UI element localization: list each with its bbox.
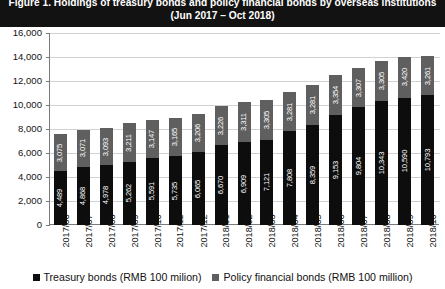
stacked-bar: 3,2066,065 <box>192 114 205 225</box>
bar-value-label: 3,147 <box>148 130 156 149</box>
bar-value-label: 10,793 <box>424 149 432 172</box>
stacked-bar: 3,3549,153 <box>329 75 342 225</box>
y-axis-tick-label: 4,000 <box>18 172 42 182</box>
chart-title-band: Figure 1. Holdings of treasury bonds and… <box>0 0 445 27</box>
y-axis-tick-label: 12,000 <box>13 76 42 86</box>
stacked-bar: 3,1475,591 <box>146 120 159 225</box>
chart-canvas: 02,0004,0006,0008,00010,00012,00014,0001… <box>0 27 445 262</box>
bar-segment-policy-bonds: 3,420 <box>398 57 411 98</box>
bar-segment-policy-bonds: 3,305 <box>260 100 273 140</box>
legend-item-treasury-bonds: Treasury bonds (RMB 100 milion) <box>33 271 202 283</box>
bar-segment-treasury-bonds: 9,153 <box>329 115 342 225</box>
y-axis-tick-label: 0 <box>37 220 42 230</box>
bar-value-label: 4,489 <box>56 189 64 208</box>
legend-item-policy-financial-bonds: Policy financial bonds (RMB 100 million) <box>212 271 412 283</box>
bar-value-label: 9,153 <box>332 161 340 180</box>
bar-segment-policy-bonds: 3,281 <box>283 92 296 131</box>
bar-segment-treasury-bonds: 8,359 <box>306 125 319 225</box>
legend-label: Treasury bonds (RMB 100 milion) <box>44 271 202 283</box>
legend-label: Policy financial bonds (RMB 100 million) <box>223 271 412 283</box>
bar-value-label: 5,591 <box>148 182 156 201</box>
bar-segment-treasury-bonds: 10,343 <box>375 101 388 225</box>
bar-value-label: 10,343 <box>378 152 386 175</box>
x-axis-tick-label: 2018/10 <box>421 228 434 241</box>
bar-segment-treasury-bonds: 9,804 <box>352 107 365 225</box>
bar-value-label: 3,281 <box>309 96 317 115</box>
y-axis-tick <box>46 225 50 226</box>
bar-segment-treasury-bonds: 6,670 <box>215 145 228 225</box>
stacked-bar: 3,42010,590 <box>398 57 411 225</box>
bar-value-label: 3,206 <box>194 124 202 143</box>
bar-value-label: 3,354 <box>332 86 340 105</box>
x-axis-tick-label: 2018/05 <box>306 228 319 241</box>
bar-value-label: 7,808 <box>286 169 294 188</box>
x-axis-tick-label: 2018/04 <box>283 228 296 241</box>
x-axis-tick-label: 2017/09 <box>123 228 136 241</box>
bar-segment-policy-bonds: 3,305 <box>375 61 388 101</box>
y-axis-tick-label: 6,000 <box>18 148 42 158</box>
stacked-bar: 3,2817,808 <box>283 92 296 225</box>
bar-segment-treasury-bonds: 10,590 <box>398 98 411 225</box>
bar-value-label: 3,281 <box>286 102 294 121</box>
y-axis-tick-label: 8,000 <box>18 124 42 134</box>
x-axis-tick-label: 2017/10 <box>146 228 159 241</box>
stacked-bar: 3,2818,359 <box>306 85 319 225</box>
x-axis-tick-label: 2018/09 <box>398 228 411 241</box>
chart-legend: Treasury bonds (RMB 100 milion)Policy fi… <box>0 265 445 289</box>
bar-segment-policy-bonds: 3,307 <box>352 68 365 108</box>
stacked-bar: 3,0754,489 <box>54 134 67 225</box>
bar-segment-policy-bonds: 3,075 <box>54 134 67 171</box>
bar-segment-policy-bonds: 3,071 <box>77 130 90 167</box>
stacked-bar: 3,3116,909 <box>238 102 251 225</box>
bar-value-label: 3,165 <box>171 128 179 147</box>
chart-screenshot: Figure 1. Holdings of treasury bonds and… <box>0 0 445 289</box>
bar-segment-policy-bonds: 3,311 <box>238 102 251 142</box>
bar-segment-treasury-bonds: 10,793 <box>421 95 434 225</box>
bar-segment-policy-bonds: 3,147 <box>146 120 159 158</box>
bar-value-label: 3,226 <box>217 116 225 135</box>
stacked-bar: 3,0714,868 <box>77 130 90 225</box>
bar-value-label: 3,305 <box>378 72 386 91</box>
x-axis-tick-label: 2018/07 <box>352 228 365 241</box>
stacked-bar: 3,2266,670 <box>215 106 228 225</box>
bar-value-label: 3,305 <box>263 110 271 129</box>
bar-value-label: 4,868 <box>79 187 87 206</box>
y-axis-tick-label: 2,000 <box>18 196 42 206</box>
bar-value-label: 4,978 <box>102 186 110 205</box>
bar-segment-policy-bonds: 3,354 <box>329 75 342 115</box>
stacked-bar: 3,3079,804 <box>352 68 365 225</box>
bar-value-label: 6,065 <box>194 179 202 198</box>
x-axis-tick-label: 2018/08 <box>375 228 388 241</box>
bar-value-label: 3,075 <box>56 143 64 162</box>
x-axis-tick-label: 2017/08 <box>100 228 113 241</box>
bar-segment-policy-bonds: 3,226 <box>215 106 228 145</box>
bar-series-group: 3,0754,4893,0714,8683,0934,9783,2115,262… <box>49 33 439 225</box>
bar-value-label: 6,909 <box>240 174 248 193</box>
bar-value-label: 7,121 <box>263 173 271 192</box>
x-axis-tick-label: 2017/07 <box>77 228 90 241</box>
x-axis-tick-label: 2017/12 <box>192 228 205 241</box>
x-axis-tick-label: 2018/06 <box>329 228 342 241</box>
stacked-bar: 3,26110,793 <box>421 56 434 225</box>
x-axis-tick-label: 2017/11 <box>169 228 182 241</box>
bar-segment-policy-bonds: 3,165 <box>169 118 182 156</box>
bar-value-label: 5,735 <box>171 181 179 200</box>
bar-value-label: 3,307 <box>355 78 363 97</box>
y-axis-tick-label: 14,000 <box>13 52 42 62</box>
stacked-bar: 3,3057,121 <box>260 100 273 225</box>
chart-title-line-1: Figure 1. Holdings of treasury bonds and… <box>0 0 445 9</box>
x-axis-tick-label: 2017/06 <box>54 228 67 241</box>
legend-swatch-icon <box>33 274 40 281</box>
x-axis-tick-label: 2018/02 <box>238 228 251 241</box>
bar-value-label: 3,420 <box>401 68 409 87</box>
bar-value-label: 8,359 <box>309 166 317 185</box>
y-axis-tick-label: 16,000 <box>13 28 42 38</box>
bar-value-label: 3,093 <box>102 137 110 156</box>
bar-segment-treasury-bonds: 7,121 <box>260 140 273 225</box>
stacked-bar: 3,1655,735 <box>169 118 182 225</box>
bar-value-label: 5,262 <box>125 184 133 203</box>
bar-value-label: 10,590 <box>401 150 409 173</box>
y-axis-tick-label: 10,000 <box>13 100 42 110</box>
bar-segment-policy-bonds: 3,261 <box>421 56 434 95</box>
bar-segment-policy-bonds: 3,093 <box>100 128 113 165</box>
